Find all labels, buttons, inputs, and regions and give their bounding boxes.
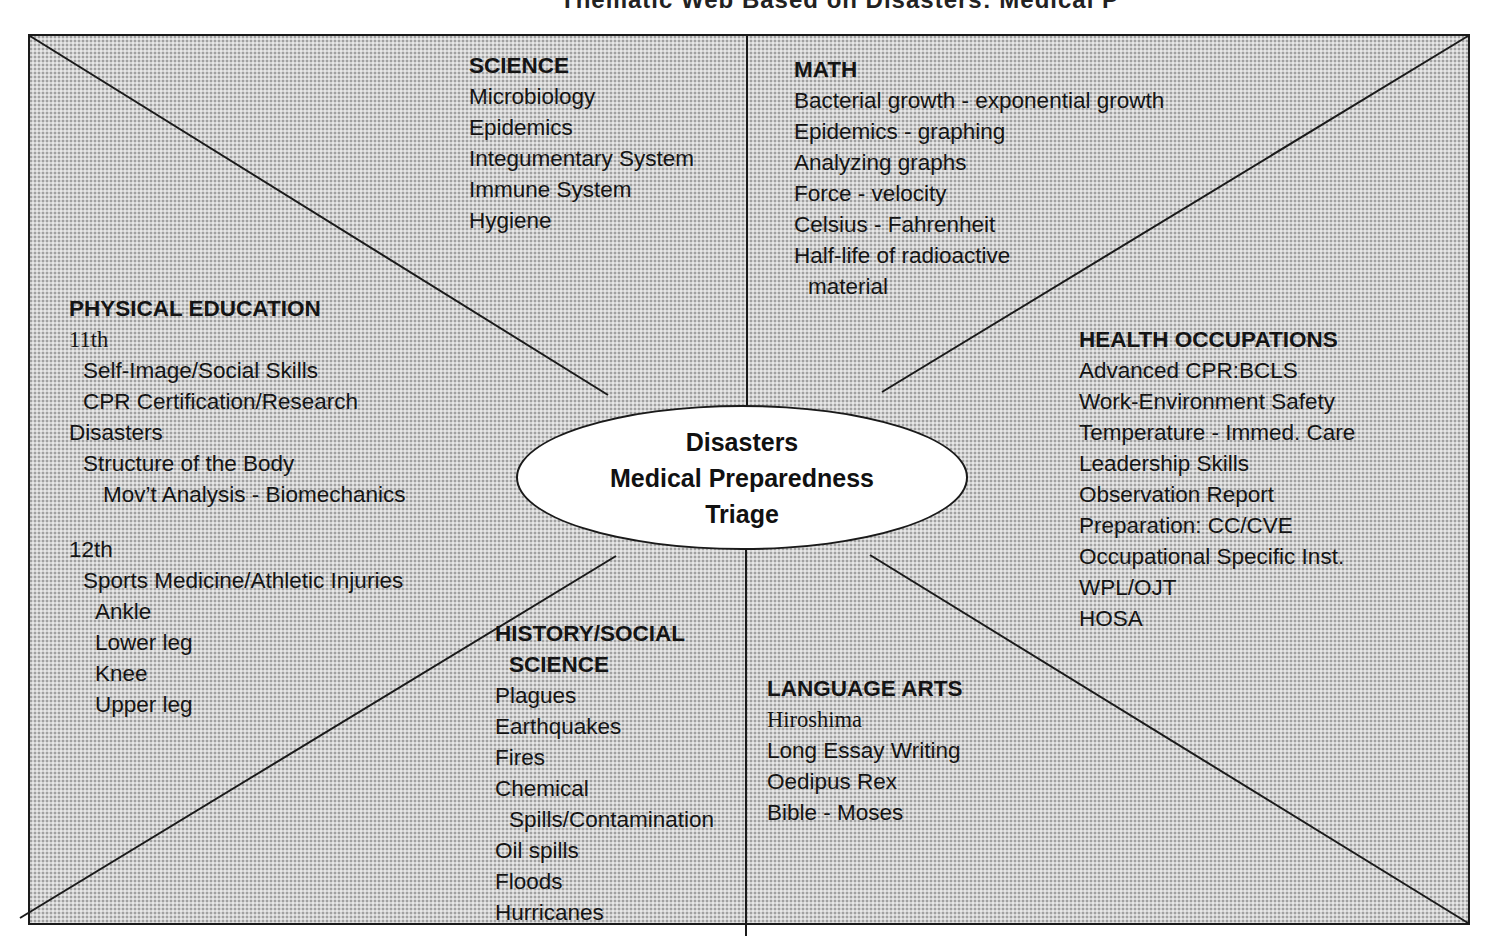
list-item: Epidemics	[469, 112, 694, 143]
list-item: Temperature - Immed. Care	[1079, 417, 1355, 448]
list-item: Long Essay Writing	[767, 735, 962, 766]
section-physical-education: PHYSICAL EDUCATION 11th Self-Image/Socia…	[69, 293, 406, 720]
section-heading-continued: SCIENCE	[495, 649, 714, 680]
section-heading: LANGUAGE ARTS	[767, 673, 962, 704]
section-heading: HISTORY/SOCIAL	[495, 618, 714, 649]
list-item: Preparation: CC/CVE	[1079, 510, 1355, 541]
list-item: Occupational Specific Inst.	[1079, 541, 1355, 572]
list-item: Bible - Moses	[767, 797, 962, 828]
list-item: Integumentary System	[469, 143, 694, 174]
list-item: Leadership Skills	[1079, 448, 1355, 479]
list-item: Fires	[495, 742, 714, 773]
list-item: Ankle	[69, 596, 406, 627]
list-item: Upper leg	[69, 689, 406, 720]
list-item: Knee	[69, 658, 406, 689]
list-item: Plagues	[495, 680, 714, 711]
list-item: Chemical	[495, 773, 714, 804]
section-science: SCIENCE Microbiology Epidemics Integumen…	[469, 50, 694, 236]
list-item: Immune System	[469, 174, 694, 205]
list-item: Epidemics - graphing	[794, 116, 1164, 147]
list-item: Microbiology	[469, 81, 694, 112]
section-heading: MATH	[794, 54, 1164, 85]
hub-line: Disasters	[686, 424, 799, 460]
grade-label: 11th	[69, 324, 406, 355]
section-history-social-science: HISTORY/SOCIAL SCIENCE Plagues Earthquak…	[495, 618, 714, 928]
list-item: HOSA	[1079, 603, 1355, 634]
list-item: Structure of the Body	[69, 448, 406, 479]
list-item: Bacterial growth - exponential growth	[794, 85, 1164, 116]
list-item: Work-Environment Safety	[1079, 386, 1355, 417]
list-item: Earthquakes	[495, 711, 714, 742]
section-heading: SCIENCE	[469, 50, 694, 81]
central-theme-ellipse: Disasters Medical Preparedness Triage	[516, 405, 968, 550]
list-item: WPL/OJT	[1079, 572, 1355, 603]
spacer	[69, 510, 406, 534]
list-item: Analyzing graphs	[794, 147, 1164, 178]
hub-line: Medical Preparedness	[610, 460, 874, 496]
list-item: Mov’t Analysis - Biomechanics	[69, 479, 406, 510]
list-item: Oil spills	[495, 835, 714, 866]
list-item: material	[794, 271, 1164, 302]
list-item: Hiroshima	[767, 704, 962, 735]
list-item: Spills/Contamination	[495, 804, 714, 835]
section-language-arts: LANGUAGE ARTS Hiroshima Long Essay Writi…	[767, 673, 962, 828]
list-item: Self-Image/Social Skills	[69, 355, 406, 386]
list-item: Lower leg	[69, 627, 406, 658]
list-item: Hygiene	[469, 205, 694, 236]
section-heading: HEALTH OCCUPATIONS	[1079, 324, 1355, 355]
subgroup-label: Disasters	[69, 417, 406, 448]
list-item: Observation Report	[1079, 479, 1355, 510]
list-item: Floods	[495, 866, 714, 897]
section-math: MATH Bacterial growth - exponential grow…	[794, 54, 1164, 302]
list-item: CPR Certification/Research	[69, 386, 406, 417]
grade-label: 12th	[69, 534, 406, 565]
section-heading: PHYSICAL EDUCATION	[69, 293, 406, 324]
section-health-occupations: HEALTH OCCUPATIONS Advanced CPR:BCLS Wor…	[1079, 324, 1355, 634]
list-item: Oedipus Rex	[767, 766, 962, 797]
list-item: Sports Medicine/Athletic Injuries	[69, 565, 406, 596]
hub-line: Triage	[705, 496, 779, 532]
list-item: Half-life of radioactive	[794, 240, 1164, 271]
list-item: Celsius - Fahrenheit	[794, 209, 1164, 240]
diagram-title: Thematic Web Based on Disasters: Medical…	[560, 0, 1120, 8]
list-item: Force - velocity	[794, 178, 1164, 209]
list-item: Advanced CPR:BCLS	[1079, 355, 1355, 386]
list-item: Hurricanes	[495, 897, 714, 928]
